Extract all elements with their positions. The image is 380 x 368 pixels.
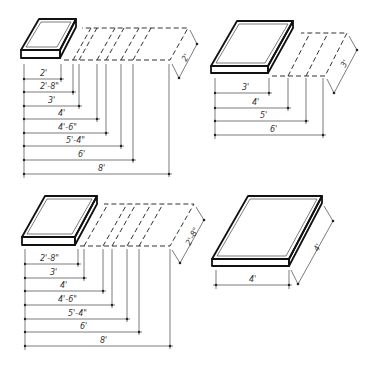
slab-bottom-right	[212, 196, 322, 266]
width-label: 3'	[50, 268, 57, 277]
diagram-canvas: 2' 2' 2'-8" 3' 4' 4'-6"	[0, 0, 380, 368]
slab-top-right	[211, 21, 293, 73]
dashed-extension-top-left	[64, 28, 188, 60]
width-label: 4'	[252, 98, 259, 107]
slab-top-left	[21, 19, 76, 58]
figure-top-left: 2' 2' 2'-8" 3' 4' 4'-6"	[21, 19, 198, 178]
width-label: 3'	[242, 83, 249, 92]
width-label: 4'-6"	[58, 123, 77, 132]
figure-top-right: 3' 3' 4' 5' 6'	[211, 21, 358, 139]
width-dimensions-top-right: 3' 4' 5' 6'	[214, 78, 326, 139]
depth-dimension-bottom-left: 2'-8"	[172, 207, 205, 264]
depth-dimension-bottom-right: 4'	[291, 206, 334, 285]
depth-label: 3'	[339, 58, 350, 69]
width-label: 5'	[260, 111, 267, 120]
depth-label: 2'	[180, 52, 191, 63]
width-dimensions-bottom-right: 4'	[213, 270, 292, 289]
depth-label: 2'-8"	[184, 226, 201, 247]
width-label: 8'	[100, 336, 107, 345]
width-label: 6'	[270, 125, 277, 134]
depth-dimension-top-right: 3'	[327, 36, 358, 94]
figure-bottom-right: 4' 4'	[212, 196, 334, 289]
width-label: 3'	[48, 96, 55, 105]
figure-bottom-left: 2'-8" 2'-8" 3' 4' 4'-6" 5'-4" 6' 8'	[22, 196, 205, 350]
slab-bottom-left	[22, 196, 97, 245]
width-label: 6'	[78, 150, 85, 159]
width-label: 5'-4"	[68, 309, 87, 318]
width-label: 4'	[60, 281, 67, 290]
width-dimensions-bottom-left: 2'-8" 3' 4' 4'-6" 5'-4" 6' 8'	[24, 249, 173, 350]
width-label: 5'-4"	[66, 136, 85, 145]
width-label: 6'	[80, 322, 87, 331]
width-label: 8'	[98, 164, 105, 173]
depth-dimension-top-left: 2'	[172, 30, 198, 79]
width-label: 2'	[40, 69, 47, 78]
width-label: 2'-8"	[40, 82, 59, 91]
dashed-extension-bottom-left	[80, 204, 194, 246]
width-dimensions-top-left: 2' 2'-8" 3' 4' 4'-6" 5'-4" 6'	[23, 64, 172, 178]
depth-label: 4'	[312, 242, 323, 253]
width-label: 4'	[249, 275, 256, 284]
width-label: 4'	[58, 109, 65, 118]
width-label: 4'-6"	[58, 295, 77, 304]
width-label: 2'-8"	[40, 254, 59, 263]
